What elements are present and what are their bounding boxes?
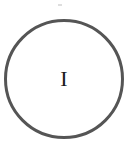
artifact-mark: [58, 4, 62, 6]
node-label: I: [60, 68, 67, 90]
circle-node: I: [4, 19, 124, 139]
